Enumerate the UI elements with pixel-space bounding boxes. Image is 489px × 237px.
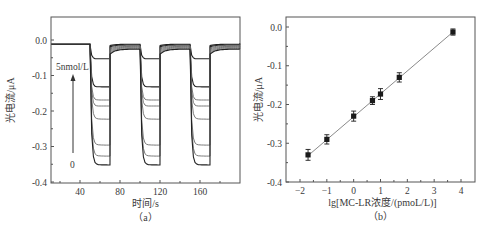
data-point	[378, 89, 383, 100]
square-marker-icon	[397, 75, 402, 80]
y-tick-label: -0.3	[32, 142, 47, 152]
y-tick-label: -0.2	[32, 107, 47, 117]
y-tick-label: 0.0	[270, 23, 282, 33]
y-tick-label: -0.1	[267, 61, 282, 71]
y-tick-label: 0.0	[35, 36, 47, 46]
x-tick-label: 0	[351, 186, 356, 196]
x-tick-label: 40	[75, 187, 85, 197]
square-marker-icon	[450, 29, 455, 34]
concentration-arrow-annotation: 5nmol/L 0	[56, 62, 89, 170]
y-tick-label: -0.3	[267, 139, 282, 149]
x-axis-title-a: 时间/s	[132, 197, 159, 209]
panel-b-calibration: 0.0-0.1-0.2-0.3-0.4 −2−101234 lg[MC-LR浓度…	[252, 17, 475, 222]
x-tick-label: 3	[432, 186, 437, 196]
data-point	[370, 97, 375, 105]
x-tick-label: −2	[295, 186, 305, 196]
arrowhead-icon	[71, 74, 76, 81]
annotation-bottom-label: 0	[70, 160, 75, 170]
trace-c3	[51, 44, 240, 119]
x-tick-label: −1	[322, 186, 332, 196]
x-tick-label: 80	[115, 187, 125, 197]
y-tick-label: -0.1	[32, 71, 47, 81]
square-marker-icon	[324, 137, 329, 142]
annotation-top-label: 5nmol/L	[56, 62, 89, 72]
y-tick-label: -0.4	[32, 178, 47, 188]
square-marker-icon	[378, 91, 383, 96]
y-axis-title-a: 光电流/μA	[4, 77, 16, 123]
panel-label-a: （a）	[133, 212, 157, 223]
square-marker-icon	[351, 114, 356, 119]
data-point	[450, 29, 455, 35]
x-tick-label: 4	[459, 186, 464, 196]
y-tick-label: -0.4	[267, 178, 282, 188]
x-tick-label: 2	[405, 186, 410, 196]
data-point	[351, 111, 356, 121]
data-point	[305, 149, 310, 160]
figure: 0.0-0.1-0.2-0.3-0.4 4080120160 5nmol/L 0…	[0, 0, 489, 237]
x-tick-label: 1	[378, 186, 383, 196]
chart-canvas: 0.0-0.1-0.2-0.3-0.4 4080120160 5nmol/L 0…	[0, 0, 489, 237]
data-point	[324, 135, 329, 144]
panel-label-b: （b）	[368, 211, 393, 222]
panel-a-photocurrent-time: 0.0-0.1-0.2-0.3-0.4 4080120160 5nmol/L 0…	[4, 17, 240, 223]
y-axis-title-b: 光电流/μA	[252, 76, 264, 122]
square-marker-icon	[370, 98, 375, 103]
trace-c2	[51, 44, 240, 145]
x-tick-label: 160	[193, 187, 208, 197]
x-tick-label: 120	[153, 187, 168, 197]
square-marker-icon	[305, 152, 310, 157]
y-tick-label: -0.2	[267, 100, 282, 110]
x-axis-title-b: lg[MC-LR浓度/(pmoL/L)]	[328, 196, 436, 209]
data-point	[397, 73, 402, 82]
plot-frame-a	[51, 17, 240, 183]
